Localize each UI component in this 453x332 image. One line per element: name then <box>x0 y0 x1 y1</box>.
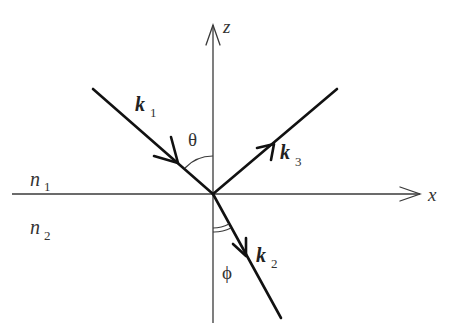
medium-n2-subscript: 2 <box>44 228 51 243</box>
theta-angle-label: θ <box>188 129 197 150</box>
phi-angle-label: ϕ <box>222 262 232 283</box>
phi-angle-arc-inner <box>213 224 229 228</box>
medium-n1-symbol: n <box>30 168 40 190</box>
reflected-ray-k3 <box>213 89 337 194</box>
medium-label-n2: n 2 <box>30 216 51 243</box>
medium-n1-subscript: 1 <box>44 179 51 194</box>
medium-label-n1: n 1 <box>30 168 51 194</box>
k1-symbol: k <box>135 93 145 115</box>
z-axis-label: z <box>222 16 231 37</box>
refraction-diagram: z x n 1 n 2 k 1 k 3 k 2 θ ϕ <box>0 0 453 332</box>
transmitted-ray-label: k 2 <box>256 244 278 271</box>
theta-angle-arc <box>185 156 213 168</box>
reflected-ray-arrowhead <box>257 144 274 160</box>
x-axis-label: x <box>427 184 437 205</box>
k2-subscript: 2 <box>271 256 278 271</box>
phi-angle-arc-outer <box>213 228 231 232</box>
k3-subscript: 3 <box>295 154 302 169</box>
incident-ray-label: k 1 <box>135 93 157 120</box>
k3-symbol: k <box>280 141 290 163</box>
medium-n2-symbol: n <box>30 216 40 238</box>
k1-subscript: 1 <box>150 105 157 120</box>
k2-symbol: k <box>256 244 266 266</box>
reflected-ray-label: k 3 <box>280 141 302 169</box>
